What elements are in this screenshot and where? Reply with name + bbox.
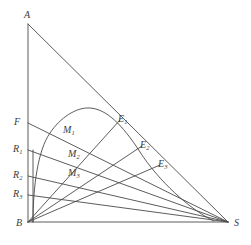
label-text: A — [24, 9, 30, 20]
geometric-diagram-figure: ABSFR1R2R3E1E2E3M1M2M3 — [0, 0, 251, 245]
vertex-label-s: S — [234, 218, 239, 228]
point-label-m3: M3 — [68, 168, 80, 178]
label-subscript: 2 — [146, 144, 149, 151]
ray-F-S — [28, 123, 228, 222]
label-subscript: 2 — [77, 153, 80, 160]
point-label-e2: E2 — [140, 140, 150, 150]
point-label-m1: M1 — [63, 125, 75, 135]
label-subscript: 2 — [19, 174, 22, 181]
point-label-r1: R1 — [13, 144, 23, 154]
label-subscript: 1 — [72, 129, 75, 136]
label-text: S — [234, 217, 239, 228]
label-text: M — [63, 124, 72, 135]
vertex-label-a: A — [24, 10, 30, 20]
curve-group — [33, 108, 214, 222]
vertex-label-b: B — [16, 218, 22, 228]
point-label-e3: E3 — [158, 159, 168, 169]
point-label-m2: M2 — [68, 149, 80, 159]
yield-curve — [33, 108, 214, 222]
label-subscript: 3 — [164, 163, 167, 170]
point-label-r3: R3 — [13, 189, 23, 199]
label-subscript: 1 — [124, 118, 127, 125]
point-label-r2: R2 — [13, 170, 23, 180]
label-text: M — [68, 167, 77, 178]
ray-R1-S — [28, 150, 228, 222]
point-label-f: F — [14, 117, 20, 127]
label-subscript: 1 — [19, 148, 22, 155]
label-text: M — [68, 148, 77, 159]
label-subscript: 3 — [19, 193, 22, 200]
label-text: F — [14, 116, 20, 127]
ray-B-E2 — [28, 146, 142, 222]
label-text: B — [16, 217, 22, 228]
label-subscript: 3 — [77, 172, 80, 179]
point-label-e1: E1 — [118, 114, 128, 124]
